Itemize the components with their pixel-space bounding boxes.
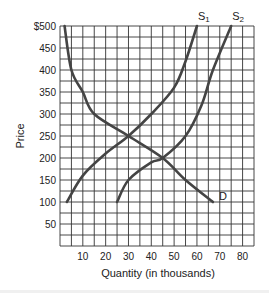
y-tick-label: 200: [39, 153, 56, 164]
supply-demand-chart: 50100150200250300350400450$500 102030405…: [0, 0, 269, 293]
x-tick-label: 60: [191, 251, 203, 262]
y-axis-ticks: 50100150200250300350400450$500: [34, 21, 57, 230]
x-axis-ticks: 1020304050607080: [77, 251, 248, 262]
y-tick-label: 450: [39, 43, 56, 54]
y-tick-label: 300: [39, 109, 56, 120]
y-tick-label: $500: [34, 21, 57, 32]
curve-label-s1: S1: [198, 10, 210, 24]
y-axis-label: Price: [14, 123, 26, 148]
x-tick-label: 70: [214, 251, 226, 262]
x-axis-label: Quantity (in thousands): [101, 267, 215, 279]
curve-labels: DS1S2: [198, 10, 245, 202]
x-tick-label: 50: [169, 251, 181, 262]
y-tick-label: 50: [45, 219, 57, 230]
chart-grid: [60, 26, 254, 246]
curve-label-s2: S2: [232, 10, 244, 24]
curve-label-d: D: [219, 190, 227, 202]
y-tick-label: 250: [39, 131, 56, 142]
x-tick-label: 40: [146, 251, 158, 262]
y-tick-label: 400: [39, 65, 56, 76]
x-tick-label: 30: [123, 251, 135, 262]
x-tick-label: 10: [77, 251, 89, 262]
y-tick-label: 350: [39, 87, 56, 98]
x-tick-label: 80: [237, 251, 249, 262]
x-tick-label: 20: [100, 251, 112, 262]
y-tick-label: 100: [39, 197, 56, 208]
y-tick-label: 150: [39, 175, 56, 186]
